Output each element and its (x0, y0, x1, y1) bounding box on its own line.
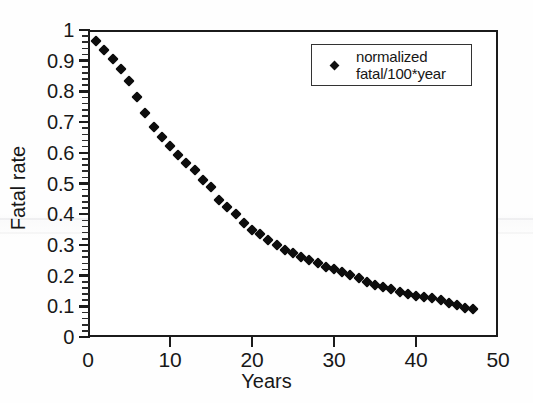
y-axis-tick-label: 0.2 (47, 266, 74, 286)
y-axis-tick-label: 0.6 (47, 143, 74, 163)
y-axis-tick-label: 0.1 (47, 296, 74, 316)
x-axis-tick-label: 0 (82, 349, 93, 371)
y-axis-title: Fatal rate (8, 118, 28, 258)
y-axis-tick-label: 1 (63, 20, 74, 40)
x-axis-tick (251, 337, 254, 347)
diamond-marker-icon (329, 60, 339, 70)
y-axis-tick-label: 0 (63, 327, 74, 347)
y-axis-tick-label: 0.8 (47, 81, 74, 101)
x-axis-tick-label: 40 (405, 349, 428, 371)
x-axis-title: Years (0, 371, 533, 392)
x-axis-tick-label: 30 (323, 349, 346, 371)
x-axis-tick-label: 10 (159, 349, 182, 371)
x-axis-tick (415, 337, 418, 347)
x-axis-tick (169, 337, 172, 347)
chart-figure: 00.10.20.30.40.50.60.70.80.91 0102030405… (0, 0, 533, 403)
y-axis-tick-label: 0.4 (47, 204, 74, 224)
x-axis-tick (333, 337, 336, 347)
x-axis-tick-label: 20 (241, 349, 264, 371)
y-axis-tick-label: 0.5 (47, 174, 74, 194)
legend-marker (312, 62, 356, 69)
y-axis-tick-label: 0.9 (47, 51, 74, 71)
y-axis-tick-label: 0.7 (47, 112, 74, 132)
chart-legend: normalized fatal/100*year (311, 44, 472, 86)
x-axis-tick-label: 50 (487, 349, 510, 371)
y-axis-tick-label: 0.3 (47, 235, 74, 255)
legend-label: normalized fatal/100*year (356, 48, 446, 82)
